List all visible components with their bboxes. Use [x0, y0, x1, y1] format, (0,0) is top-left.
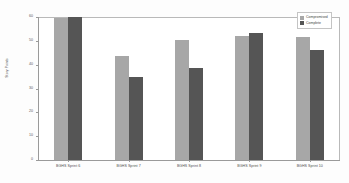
- bar[interactable]: [54, 18, 68, 160]
- y-tick-label: 50: [29, 38, 33, 42]
- x-tick-mark: [249, 160, 250, 162]
- x-tick-mark: [310, 160, 311, 162]
- y-axis-title: Story Points: [5, 45, 9, 91]
- x-tick-label: BGHS Sprint 6: [38, 164, 98, 168]
- x-tick-mark: [129, 160, 130, 162]
- bar[interactable]: [115, 56, 129, 160]
- legend-swatch-compromised: [300, 16, 304, 20]
- bar-group: [175, 17, 203, 160]
- bar-group: [54, 17, 82, 160]
- x-tick-mark: [189, 160, 190, 162]
- bar[interactable]: [129, 77, 143, 160]
- x-tick-label: BGHS Sprint 10: [280, 164, 340, 168]
- bar[interactable]: [68, 17, 82, 160]
- chart-legend: Compromised Complete: [297, 12, 332, 29]
- y-tick-label: 20: [29, 109, 33, 113]
- chart-screenshot: Story Points 0102030405060 BGHS Sprint 6…: [0, 0, 349, 183]
- y-tick-label: 60: [29, 14, 33, 18]
- y-tick-label: 10: [29, 133, 33, 137]
- y-tick-mark: [36, 160, 38, 161]
- y-tick-label: 30: [29, 86, 33, 90]
- bar[interactable]: [189, 68, 203, 160]
- legend-swatch-complete: [300, 21, 304, 25]
- bar[interactable]: [175, 40, 189, 160]
- y-tick-label: 0: [31, 157, 33, 161]
- bars-layer: [38, 17, 340, 160]
- bar-group: [235, 17, 263, 160]
- legend-label-compromised: Compromised: [306, 15, 328, 20]
- x-tick-label: BGHS Sprint 8: [159, 164, 219, 168]
- bar[interactable]: [235, 36, 249, 160]
- y-tick-label: 40: [29, 62, 33, 66]
- bar[interactable]: [249, 33, 263, 161]
- x-tick-label: BGHS Sprint 7: [99, 164, 159, 168]
- bar-group: [296, 17, 324, 160]
- legend-label-complete: Complete: [306, 21, 321, 26]
- legend-item[interactable]: Complete: [300, 21, 328, 26]
- bar[interactable]: [296, 37, 310, 160]
- bar-group: [115, 17, 143, 160]
- bar[interactable]: [310, 50, 324, 160]
- x-tick-mark: [68, 160, 69, 162]
- legend-item[interactable]: Compromised: [300, 15, 328, 20]
- x-tick-label: BGHS Sprint 9: [219, 164, 279, 168]
